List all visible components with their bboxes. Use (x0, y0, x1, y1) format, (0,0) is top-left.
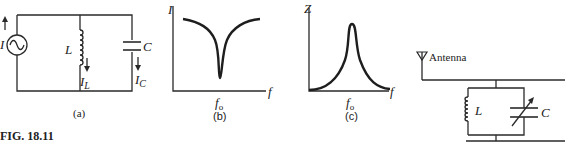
caption-c: (c) (345, 110, 358, 122)
source-label: I (0, 37, 5, 52)
caption-a: (a) (73, 107, 86, 120)
panel-a-circuit: I L IL C IC (a) (0, 15, 152, 120)
x-axis-label-c: f (390, 84, 396, 99)
tank-right-bottom-wire (468, 117, 524, 135)
capacitor-label-d: C (541, 105, 550, 120)
panel-d-antenna-circuit: Antenna L C (417, 51, 565, 141)
antenna-label: Antenna (429, 51, 466, 63)
capacitor-icon (123, 42, 141, 50)
axes-c (309, 8, 389, 91)
right-bottom-wire (17, 52, 132, 91)
panel-c-chart: Z f fo (c) (304, 1, 396, 122)
x-axis-label-b: f (268, 84, 274, 99)
panel-b-chart: I f fo (b) (167, 2, 274, 122)
antenna-icon (417, 52, 427, 80)
y-axis-label-c: Z (304, 1, 312, 16)
ac-source-icon (7, 35, 27, 55)
impedance-peak-curve (309, 24, 390, 90)
inductor-label-d: L (474, 103, 482, 118)
capacitor-label: C (143, 39, 152, 54)
capacitor-current-label: IC (134, 72, 146, 89)
inductor-coil-icon-d (465, 97, 468, 121)
current-dip-curve (183, 19, 260, 78)
capacitor-current-arrow-icon (135, 57, 141, 71)
inductor-current-arrow-icon (84, 58, 90, 72)
y-axis-label-b: I (167, 2, 173, 17)
caption-b: (b) (213, 110, 226, 122)
source-current-arrow-icon (2, 16, 8, 30)
inductor-coil-icon (80, 30, 83, 65)
top-wire (17, 15, 132, 40)
inductor-label: L (64, 42, 72, 57)
figure-label: FIG. 18.11 (0, 129, 54, 143)
inductor-current-label: IL (79, 74, 90, 91)
figure-canvas: I L IL C IC (a) FIG. 18.11 I f fo (0, 0, 569, 144)
